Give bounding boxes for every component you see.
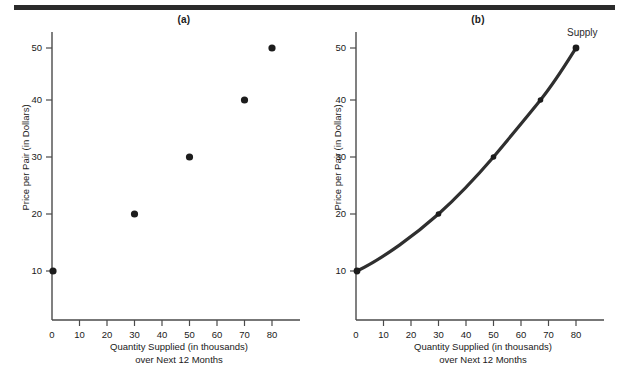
- x-tick-label: 50: [488, 329, 499, 340]
- panel-b: (b) 10 20 30 40 50: [312, 0, 624, 379]
- figure-root: (a) 10 20 30 40 50: [0, 0, 625, 379]
- curve-point-group: [354, 45, 580, 275]
- y-tick-label: 40: [31, 94, 42, 105]
- y-tick-label: 50: [31, 42, 42, 53]
- panel-a: (a) 10 20 30 40 50: [0, 0, 312, 379]
- x-tick-label: 10: [378, 329, 389, 340]
- x-tick-label: 30: [129, 329, 140, 340]
- data-point: [131, 210, 138, 217]
- panel-b-plot-area: 10 20 30 40 50 0 10 20 30 40 50 60 70: [312, 0, 624, 379]
- panel-b-y-axis-label: Price per Pair (in Dollars): [332, 88, 343, 228]
- x-axis-caption-line2: over Next 12 Months: [40, 353, 318, 366]
- data-point: [436, 211, 442, 217]
- data-point: [538, 97, 544, 103]
- x-tick-group: [80, 320, 273, 326]
- data-point: [268, 44, 275, 51]
- x-tick-label: 60: [516, 329, 527, 340]
- panel-a-plot-area: 10 20 30 40 50 0 10 20 30 40 50 60: [0, 0, 312, 379]
- data-point: [573, 45, 580, 52]
- y-tick-label: 50: [335, 42, 346, 53]
- y-tick-label: 20: [31, 208, 42, 219]
- x-tick-label: 70: [543, 329, 554, 340]
- y-tick-group: [46, 48, 52, 271]
- panel-b-x-axis-caption: Quantity Supplied (in thousands) over Ne…: [344, 340, 622, 366]
- x-tick-label: 0: [49, 329, 54, 340]
- data-point: [49, 267, 56, 274]
- x-tick-label: 10: [74, 329, 85, 340]
- x-axis-caption-line1: Quantity Supplied (in thousands): [40, 340, 318, 353]
- x-tick-group: [384, 320, 577, 326]
- panel-a-x-axis-caption: Quantity Supplied (in thousands) over Ne…: [40, 340, 318, 366]
- panel-a-y-axis-label: Price per Pair (in Dollars): [20, 88, 31, 228]
- y-tick-group: [350, 48, 356, 271]
- x-tick-label: 80: [267, 329, 278, 340]
- x-tick-label: 0: [353, 329, 358, 340]
- x-tick-label: 50: [184, 329, 195, 340]
- supply-curve-label: Supply: [567, 27, 598, 38]
- y-tick-label: 30: [31, 151, 42, 162]
- data-point: [241, 96, 248, 103]
- x-tick-label: 20: [102, 329, 113, 340]
- scatter-point-group: [49, 44, 275, 274]
- x-tick-label: 20: [406, 329, 417, 340]
- data-point: [354, 268, 361, 275]
- x-tick-label: 60: [212, 329, 223, 340]
- data-point: [186, 153, 193, 160]
- x-axis-caption-line2: over Next 12 Months: [344, 353, 622, 366]
- x-tick-label: 40: [157, 329, 168, 340]
- x-tick-label: 40: [461, 329, 472, 340]
- y-tick-label: 10: [335, 265, 346, 276]
- data-point: [491, 154, 497, 160]
- x-axis-caption-line1: Quantity Supplied (in thousands): [344, 340, 622, 353]
- x-tick-label: 80: [571, 329, 582, 340]
- x-tick-label: 70: [239, 329, 250, 340]
- y-tick-label: 10: [31, 265, 42, 276]
- x-tick-label: 30: [433, 329, 444, 340]
- supply-curve: [357, 48, 576, 271]
